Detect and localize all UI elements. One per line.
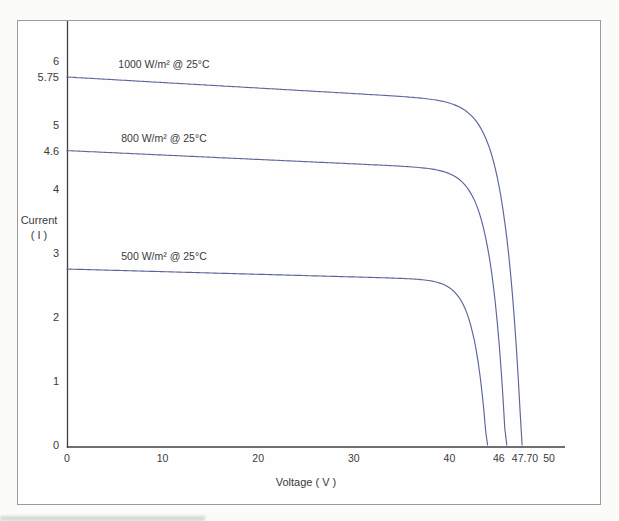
iv-curve-800wm2 <box>67 151 507 445</box>
scanned-figure-page: 012344.655.7560102030404647.7050Voltage … <box>0 0 619 521</box>
x-tick-label-10: 10 <box>157 452 169 464</box>
curve-label-1000wm2: 1000 W/m² @ 25°C <box>118 58 210 70</box>
y-tick-label-5: 5 <box>53 119 59 131</box>
y-tick-label-2: 2 <box>53 311 59 323</box>
x-tick-label-20: 20 <box>252 452 264 464</box>
y-tick-label-6: 6 <box>53 55 59 67</box>
iv-curve-chart: 012344.655.7560102030404647.7050Voltage … <box>0 0 619 521</box>
y-axis-title-line1: Current <box>21 214 58 226</box>
x-tick-label-40: 40 <box>444 452 456 464</box>
y-tick-label-4.6: 4.6 <box>44 145 59 157</box>
x-tick-label-0: 0 <box>64 452 70 464</box>
x-tick-label-50: 50 <box>543 452 555 464</box>
x-tick-label-46: 46 <box>493 452 505 464</box>
y-tick-label-3: 3 <box>53 247 59 259</box>
curve-label-800wm2: 800 W/m² @ 25°C <box>121 132 207 144</box>
y-tick-label-4: 4 <box>53 183 59 195</box>
y-tick-label-5.75: 5.75 <box>38 71 59 83</box>
iv-curve-500wm2 <box>67 269 488 445</box>
x-tick-label-47.70: 47.70 <box>512 452 538 464</box>
cropped-caption-remnant <box>0 516 205 521</box>
y-tick-label-0: 0 <box>53 439 59 451</box>
x-axis-title: Voltage ( V ) <box>276 476 337 488</box>
y-axis-title-line2: ( I ) <box>31 229 48 241</box>
y-tick-label-1: 1 <box>53 375 59 387</box>
x-tick-label-30: 30 <box>348 452 360 464</box>
curve-label-500wm2: 500 W/m² @ 25°C <box>121 250 207 262</box>
